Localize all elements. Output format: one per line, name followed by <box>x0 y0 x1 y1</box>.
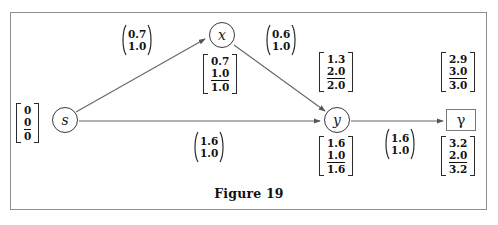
edge-label-cell: 0.7 <box>128 28 146 41</box>
vector-cell: 1.6 <box>327 162 345 176</box>
paren-left-icon <box>120 24 127 56</box>
figure-caption: Figure 19 <box>0 186 498 201</box>
vector-cell: 0 <box>24 104 31 116</box>
node-y[interactable]: y <box>324 107 350 133</box>
vector-gamma-lower: 3.2 2.0 3.2 <box>441 136 475 176</box>
edge-label-cell: 1.0 <box>128 40 146 53</box>
vector-y-lower: 1.6 1.0 1.6 <box>319 136 353 176</box>
node-s[interactable]: s <box>52 107 78 133</box>
edge-label-cell: 1.6 <box>200 135 218 148</box>
vector-cell: 3.0 <box>449 65 467 77</box>
bracket-right-icon <box>348 136 353 176</box>
vector-cell: 1.0 <box>327 149 345 161</box>
vector-cell: 1.6 <box>327 137 345 149</box>
paren-right-icon <box>410 128 417 160</box>
vector-y-upper: 1.3 2.0 2.0 <box>319 52 353 92</box>
edge-label-s-y: 1.6 1.0 <box>192 131 226 163</box>
bracket-right-icon <box>470 52 475 92</box>
vector-cell: 2.0 <box>327 65 345 77</box>
edge-label-cell: 1.0 <box>272 40 290 53</box>
paren-right-icon <box>291 24 298 56</box>
vector-cell: 0 <box>24 129 31 143</box>
edge-label-cell: 1.0 <box>200 147 218 160</box>
paren-left-icon <box>192 131 199 163</box>
vector-cell: 0.7 <box>211 55 229 67</box>
vector-cell: 1.3 <box>327 53 345 65</box>
paren-right-icon <box>147 24 154 56</box>
vector-cell: 3.0 <box>449 78 467 92</box>
node-gamma[interactable]: γ <box>446 109 476 131</box>
vector-cell: 0 <box>24 116 31 128</box>
bracket-right-icon <box>232 54 237 94</box>
vector-cell: 2.0 <box>449 149 467 161</box>
node-s-label: s <box>61 113 68 127</box>
vector-cell: 2.9 <box>449 53 467 65</box>
edge-label-x-y: 0.6 1.0 <box>264 24 298 56</box>
paren-left-icon <box>383 128 390 160</box>
node-y-label: y <box>333 113 341 127</box>
vector-cell: 2.0 <box>327 78 345 92</box>
vector-s: 0 0 0 <box>16 103 39 143</box>
bracket-right-icon <box>348 52 353 92</box>
vector-cell: 1.0 <box>211 67 229 79</box>
vector-x: 0.7 1.0 1.0 <box>203 54 237 94</box>
paren-right-icon <box>219 131 226 163</box>
vector-cell: 3.2 <box>449 137 467 149</box>
edge-label-s-x: 0.7 1.0 <box>120 24 154 56</box>
edge-label-cell: 1.6 <box>391 132 409 145</box>
vector-gamma-upper: 2.9 3.0 3.0 <box>441 52 475 92</box>
node-x-label: x <box>218 28 226 42</box>
vector-cell: 1.0 <box>211 80 229 94</box>
node-gamma-label: γ <box>457 113 466 128</box>
edge-label-y-gamma: 1.6 1.0 <box>383 128 417 160</box>
edge-label-cell: 0.6 <box>272 28 290 41</box>
node-x[interactable]: x <box>209 22 235 48</box>
bracket-right-icon <box>470 136 475 176</box>
paren-left-icon <box>264 24 271 56</box>
vector-cell: 3.2 <box>449 162 467 176</box>
bracket-right-icon <box>34 103 39 143</box>
edge-label-cell: 1.0 <box>391 144 409 157</box>
figure-diagram: s x y γ 0 0 0 0.7 1.0 1.0 1.3 2.0 2.0 <box>0 0 498 225</box>
figure-frame <box>10 12 487 210</box>
